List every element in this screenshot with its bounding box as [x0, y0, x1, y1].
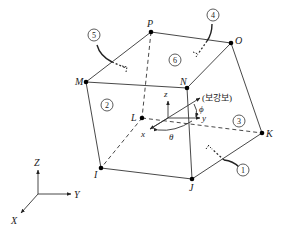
node-label-J: J [189, 182, 194, 193]
global-Z-label: Z [34, 157, 40, 168]
node-O [229, 41, 234, 46]
node-I [99, 166, 104, 171]
theta-label: θ [169, 132, 174, 142]
node-label-I: I [93, 169, 98, 180]
global-X-label: X [10, 215, 18, 226]
local-x-label: x [140, 129, 145, 139]
node-M [84, 80, 89, 85]
node-L [140, 116, 145, 121]
phi-label: ϕ [199, 104, 204, 114]
node-J [190, 177, 195, 182]
node-label-N: N [179, 76, 188, 87]
face-label-3: 3 [237, 117, 241, 126]
node-K [260, 131, 265, 136]
face-label-2: 2 [105, 101, 109, 110]
node-label-O: O [235, 35, 242, 46]
global-Y-label: Y [74, 189, 81, 200]
local-y-label: y [201, 113, 206, 123]
face-label-4: 4 [211, 11, 215, 20]
node-label-K: K [265, 128, 274, 139]
node-P [149, 30, 154, 35]
node-label-L: L [130, 112, 137, 123]
face-label-1: 1 [241, 166, 245, 175]
global-coordinate-system: Z Y X [10, 157, 81, 226]
face-label-6: 6 [173, 56, 177, 65]
rebar-label: (보강보) [202, 93, 232, 103]
local-z-label: z [163, 89, 168, 99]
node-label-M: M [74, 76, 84, 87]
node-label-P: P [146, 18, 153, 29]
face-label-5: 5 [92, 31, 96, 40]
local-coordinate-system: z y x (보강보) θ ϕ [140, 89, 232, 142]
diagram-canvas: z y x (보강보) θ ϕ M P O N L I J K [0, 0, 282, 233]
